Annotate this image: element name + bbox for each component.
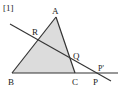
point-label-a: A bbox=[52, 6, 59, 16]
figure-label: [1] bbox=[3, 3, 14, 13]
geometry-diagram: [1] A R Q B C P P' bbox=[0, 0, 124, 90]
point-label-p: P bbox=[93, 77, 98, 87]
point-label-q: Q bbox=[73, 51, 80, 61]
point-label-r: R bbox=[32, 27, 38, 37]
point-label-b: B bbox=[8, 77, 14, 87]
point-label-c: C bbox=[72, 77, 78, 87]
point-label-p-prime: P' bbox=[98, 64, 104, 73]
